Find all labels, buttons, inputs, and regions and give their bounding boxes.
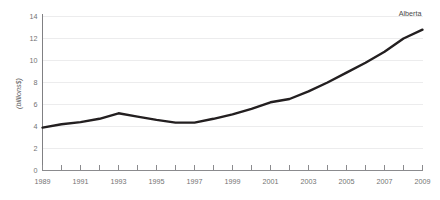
y-tick-label-0: 0: [34, 166, 38, 175]
x-tick-label-1997: 1997: [187, 177, 203, 186]
y-axis-tick-labels: 02468101214: [30, 12, 38, 175]
line-chart: 02468101214 1989199119931995199719992001…: [0, 0, 440, 200]
x-tick-label-2007: 2007: [377, 177, 393, 186]
series-label-alberta: Alberta: [399, 9, 422, 18]
x-tick-label-2009: 2009: [415, 177, 431, 186]
x-tick-label-1993: 1993: [111, 177, 127, 186]
y-tick-label-14: 14: [30, 12, 38, 21]
x-tick-label-1995: 1995: [149, 177, 165, 186]
data-series-alberta: [43, 30, 423, 128]
y-tick-label-10: 10: [30, 56, 38, 65]
y-tick-label-8: 8: [34, 78, 38, 87]
x-axis-tick-labels: 1989199119931995199719992001200320052007…: [35, 177, 431, 186]
y-tick-label-2: 2: [34, 144, 38, 153]
gridlines: [43, 17, 423, 149]
x-axis-tickmarks: [43, 165, 423, 171]
x-tick-label-1999: 1999: [225, 177, 241, 186]
x-tick-label-2003: 2003: [301, 177, 317, 186]
x-tick-label-2001: 2001: [263, 177, 279, 186]
x-tick-label-1991: 1991: [73, 177, 89, 186]
y-tick-label-12: 12: [30, 34, 38, 43]
chart-canvas: 02468101214 1989199119931995199719992001…: [0, 0, 440, 200]
y-axis-title: (billions$): [14, 78, 23, 109]
x-tick-label-1989: 1989: [35, 177, 51, 186]
series-line-alberta: [43, 30, 423, 128]
x-tick-label-2005: 2005: [339, 177, 355, 186]
y-tick-label-4: 4: [34, 122, 38, 131]
axis-spines: [43, 14, 423, 171]
y-tick-label-6: 6: [34, 100, 38, 109]
